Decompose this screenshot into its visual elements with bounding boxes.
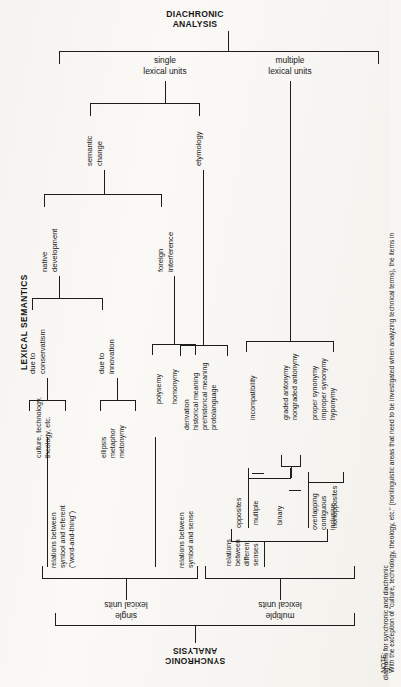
- relations-symbol-referent-line2: symbol and referent: [60, 505, 68, 568]
- conservatism-leaf-right-tick: [65, 400, 66, 411]
- relations-symbol-sense-line1: relations between: [179, 512, 187, 568]
- inclusive-label: inclusive: [330, 503, 338, 530]
- native-development-stem: [59, 276, 60, 298]
- due-to-conservatism-line2: conservatism: [39, 329, 48, 374]
- opposites-label: opposites: [236, 498, 244, 528]
- single-split-right-tick: [199, 103, 200, 116]
- semantic-change-rail-left-tick: [44, 194, 45, 207]
- diachronic-top-rail: [59, 51, 379, 52]
- synchronic-multiple-left-tick: [205, 566, 206, 579]
- single-split-left-tick: [90, 103, 91, 116]
- synchronic-multiple-stem: [280, 578, 281, 600]
- prehistorical-meaning-label: prehistorical meaning: [202, 363, 210, 430]
- historical-meaning-label: historical meaning: [193, 373, 201, 430]
- opposites-up-stem: [248, 478, 249, 528]
- synchronic-rail-right-tick: [354, 613, 355, 626]
- single-split-rail: [90, 103, 200, 104]
- relations-diff-senses-line4: senses: [253, 544, 261, 566]
- incompatibility-connector: [252, 473, 264, 474]
- innovation-leaf-right-tick: [135, 400, 136, 411]
- metonymy-label: metonymy: [119, 425, 127, 458]
- diachronic-rail-left-tick: [59, 51, 60, 64]
- relations-symbol-referent-line1: relations between: [51, 512, 59, 568]
- etymology-leaf-left-tick: [180, 345, 181, 356]
- symbol-referent-up-stem: [47, 437, 48, 567]
- native-development-line2: development: [51, 229, 60, 272]
- metaphor-label: metaphor: [110, 428, 118, 458]
- binary-opposites-label: binary: [277, 506, 285, 525]
- diachronic-multiple-stem: [290, 81, 291, 341]
- diachronic-single-label-line2: lexical units: [110, 67, 220, 76]
- nonopposites-split-left-tick: [308, 472, 309, 483]
- innovation-stem: [117, 378, 118, 400]
- due-to-conservatism-line1: due to: [29, 353, 38, 374]
- foreign-interference-stem: [174, 276, 175, 344]
- ellipsis-label: ellipsis: [101, 437, 109, 458]
- nongraded-antonymy-label: nongraded antonymy: [292, 353, 300, 420]
- conservatism-leaf-left-tick: [29, 400, 30, 411]
- relations-diff-senses-line1: relations: [226, 539, 234, 566]
- synchronic-multiple-rail: [205, 578, 355, 579]
- diachronic-multiple-left-tick: [246, 341, 247, 352]
- synchronic-single-line2: lexical units: [71, 600, 181, 609]
- synchronic-multiple-line1: multiple: [230, 611, 330, 620]
- etymology-leaf-right-tick: [227, 345, 228, 356]
- semantic-change-stem: [104, 170, 105, 194]
- contiguous-label: contiguous: [321, 496, 329, 530]
- overlapping-label: overlapping: [312, 493, 320, 530]
- native-rail-right-tick: [102, 298, 103, 310]
- polysemy-label: polysemy: [156, 374, 164, 404]
- synchronic-title-line2: ANALYSIS: [135, 645, 255, 655]
- diachronic-title-line2: ANALYSIS: [135, 20, 255, 30]
- synchronic-trunk: [195, 625, 196, 643]
- protolanguage-label: protolanguage: [211, 385, 219, 430]
- graded-antonymy-label: graded antonymy: [283, 365, 291, 420]
- opposites-right-tick: [327, 529, 328, 542]
- culture-technology-line1: culture, technology,: [36, 397, 44, 458]
- conservatism-stem: [47, 378, 48, 400]
- synchronic-single-line1: single: [76, 611, 176, 620]
- foreign-interference-line1: foreign: [157, 249, 166, 272]
- antonymy-left-tick: [281, 455, 282, 466]
- diachronic-trunk: [228, 31, 229, 51]
- figure-note-line2: diagrams for synchronic and diachronic: [382, 565, 390, 680]
- diachronic-multiple-label-line2: lexical units: [235, 67, 345, 76]
- semantic-change-line1: semantic: [86, 136, 95, 166]
- nonopposites-split-rail: [308, 482, 344, 483]
- semantic-change-rail: [44, 194, 162, 195]
- innovation-leaf-rail: [100, 400, 136, 401]
- native-development-line1: native: [41, 252, 50, 272]
- relations-diff-senses-line3: different: [244, 540, 252, 566]
- diachronic-multiple-right-tick: [333, 341, 334, 352]
- relations-symbol-sense-line2: symbol and sense: [188, 511, 196, 568]
- etymology-leaf-rail: [180, 345, 228, 346]
- semantic-change-line2: change: [96, 141, 105, 166]
- binary-connector: [289, 490, 301, 491]
- opposites-rail: [231, 541, 328, 542]
- relations-symbol-referent-line3: ("word-and-thing"): [69, 511, 77, 568]
- diachronic-multiple-rail: [246, 341, 334, 342]
- antonymy-right-tick: [300, 455, 301, 466]
- foreign-interference-line2: interference: [167, 232, 176, 272]
- improper-synonymy-label: improper synonymy: [321, 358, 329, 420]
- relations-diff-senses-line2: between: [235, 539, 243, 566]
- foreign-leaf-left-tick: [152, 344, 153, 355]
- opposites-split-rail: [248, 478, 291, 479]
- synchronic-single-rail: [42, 578, 198, 579]
- synchronic-rail-left-tick: [55, 613, 56, 626]
- diachronic-multiple-label-line1: multiple: [240, 56, 340, 65]
- synchronic-single-left-tick: [42, 566, 43, 579]
- synchronic-title-line1: SYNCHRONIC: [135, 655, 255, 665]
- diachronic-single-label-line1: single: [115, 56, 215, 65]
- due-to-innovation-line2: innovation: [108, 339, 117, 374]
- synchronic-single-stem: [126, 578, 127, 600]
- semantic-change-rail-right-tick: [161, 194, 162, 207]
- multiple-opposites-label: multiple: [253, 501, 261, 525]
- etymology-label: etymology: [195, 131, 204, 166]
- native-development-rail: [32, 298, 103, 299]
- due-to-innovation-line1: due to: [98, 353, 107, 374]
- native-rail-left-tick: [32, 298, 33, 310]
- hyponymy-label: hyponymy: [330, 388, 338, 420]
- relations-diff-senses-stem: [264, 541, 265, 567]
